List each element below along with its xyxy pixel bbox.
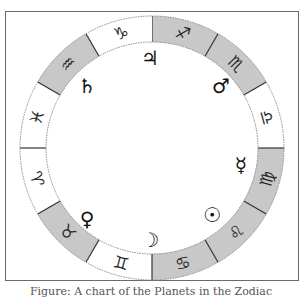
sun-icon: ☉︎	[203, 203, 221, 227]
jupiter-icon: ♃︎	[141, 46, 159, 70]
planet-symbols: ♃︎♂︎♄︎☿︎♀︎☉︎☽︎	[78, 46, 247, 252]
mercury-icon: ☿︎	[235, 153, 247, 177]
venus-icon: ♀︎	[80, 207, 95, 231]
figure-caption: Figure: A chart of the Planets in the Zo…	[0, 286, 302, 298]
mars-icon: ♂︎	[212, 74, 230, 98]
saturn-icon: ♄︎	[78, 74, 96, 98]
moon-icon: ☽︎	[141, 228, 159, 252]
